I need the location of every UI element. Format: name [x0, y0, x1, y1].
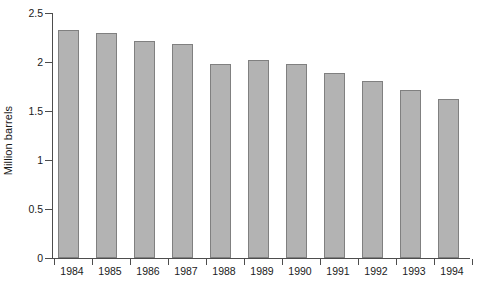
bar[interactable] [58, 30, 79, 258]
x-axis-line [52, 258, 470, 259]
x-axis-tick-label: 1989 [243, 265, 281, 277]
bar[interactable] [248, 60, 269, 258]
bar[interactable] [324, 73, 345, 258]
x-axis-tick-label: 1987 [167, 265, 205, 277]
bar[interactable] [134, 41, 155, 258]
x-axis-tick [472, 259, 473, 265]
bar[interactable] [96, 33, 117, 258]
bar[interactable] [400, 90, 421, 258]
y-axis-tick-label: 0.5 [2, 204, 43, 214]
x-axis-tick-label: 1994 [433, 265, 471, 277]
x-axis-tick-label: 1991 [319, 265, 357, 277]
y-axis-tick [45, 62, 52, 63]
x-axis-tick-label: 1985 [91, 265, 129, 277]
bar[interactable] [172, 44, 193, 258]
y-axis-tick [45, 209, 52, 210]
y-axis-tick [45, 160, 52, 161]
bar[interactable] [438, 99, 459, 258]
x-axis-tick-label: 1993 [395, 265, 433, 277]
y-axis-tick-label: 2 [2, 57, 43, 67]
y-axis-tick [45, 258, 52, 259]
y-axis-tick [45, 111, 52, 112]
y-axis-tick-label: 0 [2, 253, 43, 263]
bar[interactable] [210, 64, 231, 258]
x-axis-tick-label: 1988 [205, 265, 243, 277]
y-axis-tick [45, 13, 52, 14]
x-axis-tick-label: 1984 [53, 265, 91, 277]
x-axis-tick-label: 1986 [129, 265, 167, 277]
y-axis-tick-label: 1.5 [2, 106, 43, 116]
x-axis-tick-label: 1990 [281, 265, 319, 277]
y-axis-labels: 00.511.522.5 [0, 0, 43, 281]
y-axis-tick-label: 2.5 [2, 8, 43, 18]
bar[interactable] [362, 81, 383, 258]
plot-area [53, 13, 470, 258]
x-axis-tick-label: 1992 [357, 265, 395, 277]
bar[interactable] [286, 64, 307, 258]
bar-chart: Million barrels 00.511.522.5 19841985198… [0, 0, 486, 281]
y-axis-tick-label: 1 [2, 155, 43, 165]
